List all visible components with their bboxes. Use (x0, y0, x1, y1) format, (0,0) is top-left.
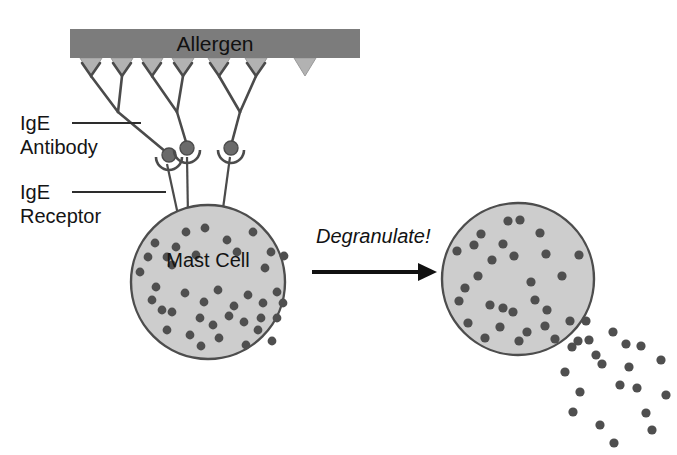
granule-dot (541, 249, 550, 258)
granule-dot (279, 299, 288, 308)
mast-cell-right (442, 203, 594, 355)
granule-dot (209, 321, 218, 330)
antibody-stem (177, 112, 186, 142)
granule-dot (454, 296, 463, 305)
antibody-arm (177, 76, 183, 112)
granule-dot (268, 337, 277, 346)
diagram-canvas: Allergen (0, 0, 677, 455)
granule-dot (542, 305, 551, 314)
granule-dot (242, 341, 251, 350)
granule-dot (254, 326, 263, 335)
granule-dot (550, 334, 559, 343)
granule-dot (186, 331, 195, 340)
mast-cell-membrane (442, 203, 594, 355)
granule-dot (257, 314, 266, 323)
granule-dot (530, 295, 539, 304)
granule-dot (182, 228, 191, 237)
ige-antibody (143, 63, 192, 142)
granule-dot (641, 408, 650, 417)
granule-dot (273, 314, 282, 323)
granule-dot (574, 250, 583, 259)
granule-dot (485, 300, 494, 309)
granule-dot (136, 268, 145, 277)
granule-dot (280, 252, 289, 261)
granule-dot (267, 248, 276, 257)
granule-dot (240, 318, 249, 327)
granule-dot (515, 215, 524, 224)
antibody-arm (118, 76, 122, 112)
receptor-knob-icon (224, 141, 238, 155)
granule-dot (152, 283, 161, 292)
granule-dot (223, 236, 232, 245)
granule-dot (656, 355, 665, 364)
granule-dot (508, 307, 517, 316)
granule-dot (261, 264, 270, 273)
granule-dot (196, 314, 205, 323)
granule-dot (460, 283, 469, 292)
granule-dot (148, 296, 157, 305)
granule-dot (597, 359, 606, 368)
granule-dot (163, 326, 172, 335)
granule-dot (581, 316, 590, 325)
granule-dot (535, 228, 544, 237)
granule-dot (230, 302, 239, 311)
granule-dot (214, 286, 223, 295)
granule-dot (591, 350, 600, 359)
mast-cell-left: Mast Cell (131, 205, 288, 359)
granule-dot (181, 289, 190, 298)
granule-dot (567, 342, 576, 351)
mast-cell-label: Mast Cell (166, 249, 249, 271)
granule-dot (565, 316, 574, 325)
granule-dot (540, 321, 549, 330)
mast-cell-degranulation-figure: Allergen (0, 0, 677, 455)
granule-dot (273, 288, 282, 297)
granule-dot (568, 407, 577, 416)
granule-dot (526, 277, 535, 286)
granule-dot (503, 216, 512, 225)
granule-dot (151, 239, 160, 248)
granule-dot (560, 367, 569, 376)
antibody-arm (91, 76, 118, 112)
granule-dot (647, 425, 656, 434)
granule-dot (197, 342, 206, 351)
granule-dot (557, 271, 566, 280)
granule-dot (249, 228, 258, 237)
antibody-arm (152, 76, 177, 112)
granule-dot (498, 303, 507, 312)
granule-dot (158, 306, 167, 315)
receptor-knob-icon (180, 141, 194, 155)
granule-dot (473, 271, 482, 280)
ige-antibody-group (82, 63, 265, 152)
released-granule-cluster (560, 316, 670, 447)
granule-dot (608, 327, 617, 336)
granule-dot (463, 318, 472, 327)
granule-dot (498, 239, 507, 248)
granule-dot (201, 224, 210, 233)
granule-dot (575, 387, 584, 396)
antibody-arm (219, 76, 240, 112)
granule-dot (225, 312, 234, 321)
degranulate-label: Degranulate! (316, 225, 431, 247)
allergen-label: Allergen (176, 32, 253, 55)
granule-dot (584, 335, 593, 344)
granule-dot (624, 362, 633, 371)
granule-dot (200, 298, 209, 307)
granule-dot (636, 341, 645, 350)
granule-dot (487, 255, 496, 264)
granule-dot (144, 253, 153, 262)
granule-dot (522, 327, 531, 336)
ige-receptor-label-line2: Receptor (20, 205, 101, 227)
granule-dot (469, 240, 478, 249)
granule-dot (661, 390, 670, 399)
granule-dot (632, 383, 641, 392)
granule-dot (595, 420, 604, 429)
ige-antibody-label-line2: Antibody (20, 136, 98, 158)
antibody-stem (118, 112, 166, 152)
granule-dot (495, 322, 504, 331)
ige-receptor (218, 141, 244, 216)
granule-dot (609, 438, 618, 447)
allergen-wedge-icon (294, 58, 316, 76)
ige-antibody-label-line1: IgE (20, 112, 50, 134)
antibody-stem (232, 112, 240, 142)
granule-dot (168, 308, 177, 317)
